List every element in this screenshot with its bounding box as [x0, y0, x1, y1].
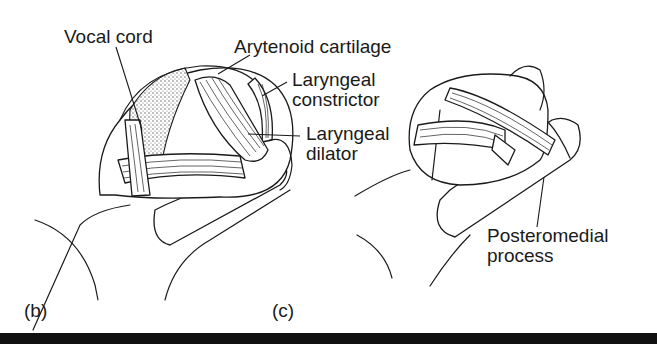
label-vocal-cord: Vocal cord: [64, 27, 153, 47]
panel-letter-c: (c): [272, 300, 294, 322]
label-posteromedial-process: Posteromedial process: [487, 226, 608, 266]
label-laryngeal-constrictor-line1: Laryngeal: [292, 70, 380, 90]
larynx-figure: Vocal cord Arytenoid cartilage Laryngeal…: [0, 0, 657, 344]
label-laryngeal-dilator-line1: Laryngeal: [306, 124, 389, 144]
bottom-border-bar: [0, 333, 657, 344]
label-laryngeal-constrictor-line2: constrictor: [292, 90, 380, 110]
label-laryngeal-dilator: Laryngeal dilator: [306, 124, 389, 164]
label-arytenoid-cartilage: Arytenoid cartilage: [234, 37, 391, 57]
panel-letter-b: (b): [24, 300, 47, 322]
label-laryngeal-dilator-line2: dilator: [306, 144, 389, 164]
label-posteromedial-process-line2: process: [487, 246, 608, 266]
panel-b-drawing: [33, 66, 293, 330]
label-laryngeal-constrictor: Laryngeal constrictor: [292, 70, 380, 110]
label-posteromedial-process-line1: Posteromedial: [487, 226, 608, 246]
leader-posteromedial-process: [537, 177, 544, 227]
